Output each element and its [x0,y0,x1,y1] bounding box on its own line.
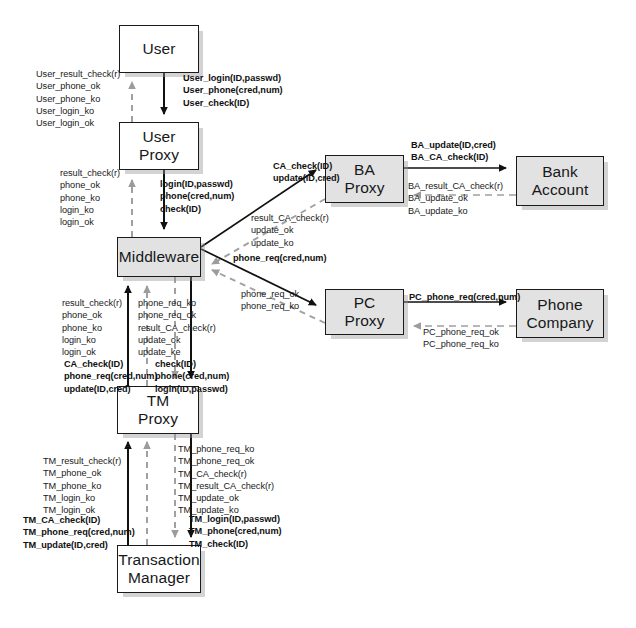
message-label-mw-tm-down: check(ID)phone(cred,num)login(ID,passwd) [155,358,229,395]
message-label-ca-result: result_CA_check(r)update_okupdate_ko [251,212,329,249]
node-user_proxy[interactable]: UserProxy [119,122,199,170]
message-label-pc-down: PC_phone_req(cred,num) [409,291,520,303]
node-label: User [142,40,175,58]
message-label-user-down: User_login(ID,passwd)User_phone(cred,num… [183,72,283,109]
message-text: PC_phone_req(cred,num) [409,291,520,303]
node-label: PC [354,294,376,312]
message-text: User_login(ID,passwd) [183,72,283,84]
message-text: phone_ok [60,179,120,191]
message-text: TM_result_CA_check(r) [178,480,274,492]
node-tx_mgr[interactable]: TransactionManager [117,545,201,593]
message-label-ca-check: CA_check(ID)update(ID,cred) [273,160,340,185]
message-text: User_phone_ok [36,80,120,92]
message-text: User_login_ok [36,117,120,129]
message-text: BA_update_ok [408,192,503,204]
message-label-tm-up2: TM_CA_check(ID)TM_phone_req(cred,num)TM_… [23,514,135,551]
message-text: check(ID) [155,358,229,370]
message-text: TM_phone_ko [43,480,121,492]
message-text: TM_CA_check(ID) [23,514,135,526]
message-text: phone(cred,num) [155,370,229,382]
message-text: phone_req_ko [138,297,216,309]
message-text: PC_phone_req_ok [423,326,499,338]
node-user[interactable]: User [119,25,199,73]
node-label: Proxy [344,312,384,330]
message-text: result_CA_check(r) [251,212,329,224]
message-text: TM_update(ID,cred) [23,539,135,551]
message-text: phone_ko [60,192,120,204]
node-label: User [142,128,175,146]
node-label: Proxy [138,410,178,428]
message-text: TM_check(ID) [189,538,282,550]
message-text: phone_req_ko [241,300,299,312]
message-text: User_phone_ko [36,93,120,105]
message-label-tm-up: TM_result_check(r)TM_phone_okTM_phone_ko… [43,455,121,516]
message-label-ba-up: BA_result_CA_check(r) BA_update_ok BA_up… [408,180,503,217]
message-text: BA_update_ko [408,205,503,217]
message-text: CA_check(ID) [64,358,158,370]
message-text: check(ID) [160,203,234,215]
message-label-proxy-up: result_check(r)phone_okphone_kologin_kol… [60,167,120,228]
message-text: User_check(ID) [183,97,283,109]
message-label-tm-mid: TM_phone_req_koTM_phone_req_okTM_CA_chec… [178,443,274,517]
message-text: TM_phone_req_ok [178,455,274,467]
message-text: TM_phone_req_ko [178,443,274,455]
node-bank[interactable]: BankAccount [516,156,604,206]
message-text: login_ok [62,346,122,358]
message-text: phone_req(cred,num) [64,370,158,382]
message-text: TM_login(ID,passwd) [189,513,282,525]
message-text: login_ok [60,216,120,228]
message-text: User_result_check(r) [36,68,120,80]
message-label-pc-up: PC_phone_req_okPC_phone_req_ko [423,326,499,351]
message-label-phone-req-res: phone_req_okphone_req_ko [241,288,299,313]
message-text: phone_req_ok [138,309,216,321]
message-text: TM_phone_req(cred,num) [23,526,135,538]
message-text: TM_result_check(r) [43,455,121,467]
node-label: Phone [537,296,582,314]
message-text: BA_update(ID,cred) [411,139,496,151]
node-label: Bank [542,163,578,181]
node-phone_co[interactable]: PhoneCompany [516,289,604,338]
message-text: TM_CA_check(r) [178,468,274,480]
message-text: login(ID,passwd) [160,178,234,190]
message-text: update_ok [138,334,216,346]
node-label: Proxy [139,146,179,164]
message-text: login_ko [62,334,122,346]
node-label: Transaction [118,551,200,569]
message-text: update_ke [138,346,216,358]
message-text: result_CA_check(r) [138,322,216,334]
message-label-ba-down: BA_update(ID,cred)BA_CA_check(ID) [411,139,496,164]
message-text: update(ID,cred) [64,383,158,395]
message-text: update_ko [251,237,329,249]
node-label: Proxy [344,179,384,197]
message-text: User_login_ko [36,105,120,117]
message-text: phone_req(cred,num) [233,252,327,264]
message-text: phone(cred,num) [160,190,234,202]
message-text: phone_ok [62,309,122,321]
message-label-mw-tm-mid: phone_req_kophone_req_okresult_CA_check(… [138,297,216,358]
node-label: Manager [128,569,190,587]
message-text: PC_phone_req_ko [423,338,499,350]
message-text: login_ko [60,204,120,216]
node-pc_proxy[interactable]: PCProxy [325,289,404,335]
message-text: phone_ko [62,322,122,334]
message-label-phone-req: phone_req(cred,num) [233,252,327,264]
node-label: Middleware [119,248,199,266]
message-text: phone_req_ok [241,288,299,300]
message-label-mw-tm-up2: CA_check(ID)phone_req(cred,num)update(ID… [64,358,158,395]
message-text: TM_update_ok [178,492,274,504]
message-text: update(ID,cred) [273,172,340,184]
diagram-canvas: UserUserProxyMiddlewareBAProxyBankAccoun… [0,0,636,628]
message-text: BA_result_CA_check(r) [408,180,503,192]
node-label: BA [354,161,375,179]
message-text: update_ok [251,224,329,236]
message-text: User_phone(cred,num) [183,84,283,96]
message-label-tm-down: TM_login(ID,passwd)TM_phone(cred,num)TM_… [189,513,282,550]
node-label: Account [532,181,589,199]
message-text: result_check(r) [62,297,122,309]
node-middleware[interactable]: Middleware [117,237,201,277]
message-text: BA_CA_check(ID) [411,151,496,163]
message-label-mw-tm-up: result_check(r)phone_okphone_kologin_kol… [62,297,122,358]
message-text: TM_phone_ok [43,467,121,479]
node-label: Company [526,314,593,332]
message-text: TM_login_ko [43,492,121,504]
